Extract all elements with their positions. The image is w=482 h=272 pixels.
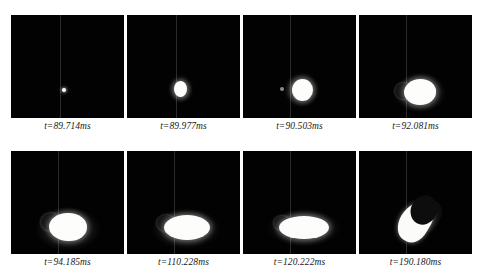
panel-caption-text-1: t=89.714ms [44,121,91,131]
panel-caption-7: t=120.222ms [243,256,356,268]
panel-caption-2: t=89.977ms [127,120,240,132]
frame-image-6 [127,151,240,254]
panel-caption-text-5: t=94.185ms [44,257,91,267]
panel-caption-text-3: t=90.503ms [276,121,323,131]
panel-5 [11,151,124,254]
droplet-satellite [280,87,284,91]
droplet-shape [279,216,329,239]
panel-4 [359,15,472,118]
droplet-shape [62,88,66,92]
panel-8 [359,151,472,254]
panel-caption-text-6: t=110.228ms [158,257,209,267]
panel-7 [243,151,356,254]
droplet-shape [174,81,187,97]
frame-image-7 [243,151,356,254]
panel-2 [127,15,240,118]
frame-image-4 [359,15,472,118]
panel-caption-8: t=190.180ms [359,256,472,268]
panel-caption-3: t=90.503ms [243,120,356,132]
panel-caption-text-7: t=120.222ms [274,257,326,267]
panel-caption-4: t=92.081ms [359,120,472,132]
frame-image-1 [11,15,124,118]
panel-3 [243,15,356,118]
panel-1 [11,15,124,118]
panel-caption-text-4: t=92.081ms [392,121,439,131]
droplet-shape [404,79,436,105]
droplet-shape [164,215,210,240]
panel-row-top: t=89.714ms t=89.977ms t=90.503ms [0,0,482,136]
panel-caption-5: t=94.185ms [11,256,124,268]
reference-line-icon [60,15,61,118]
droplet-shape [49,213,87,241]
panel-caption-6: t=110.228ms [127,256,240,268]
figure-image-sequence: t=89.714ms t=89.977ms t=90.503ms [0,0,482,272]
frame-image-8 [359,151,472,254]
panel-caption-text-2: t=89.977ms [160,121,207,131]
droplet-shape [292,79,313,101]
panel-6 [127,151,240,254]
frame-image-3 [243,15,356,118]
frame-image-2 [127,15,240,118]
reference-line-icon [176,15,177,118]
frame-image-5 [11,151,124,254]
panel-row-bottom: t=94.185ms t=110.228ms t=120.222ms [0,136,482,272]
panel-caption-text-8: t=190.180ms [390,257,442,267]
panel-caption-1: t=89.714ms [11,120,124,132]
